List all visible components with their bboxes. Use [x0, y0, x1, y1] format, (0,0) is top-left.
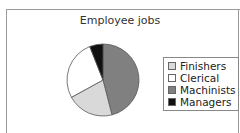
legend-label: Finishers [180, 60, 226, 72]
legend-swatch-managers [168, 98, 176, 106]
legend-item-machinists: Machinists [168, 84, 238, 96]
chart-legend: Finishers Clerical Machinists Managers [163, 57, 239, 111]
legend-swatch-finishers [168, 62, 176, 70]
legend-swatch-machinists [168, 86, 176, 94]
legend-label: Machinists [180, 84, 235, 96]
legend-item-finishers: Finishers [168, 60, 238, 72]
legend-swatch-clerical [168, 74, 176, 82]
legend-item-clerical: Clerical [168, 72, 238, 84]
legend-label: Clerical [180, 72, 219, 84]
legend-item-managers: Managers [168, 96, 238, 108]
legend-label: Managers [180, 96, 232, 108]
